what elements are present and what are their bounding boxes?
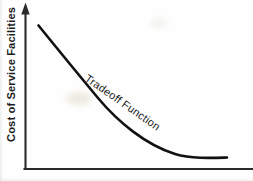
tradeoff-curve <box>39 26 228 158</box>
y-axis-arrow-icon <box>21 3 29 15</box>
tradeoff-function-chart: Cost of Service Facilities Tradeoff Func… <box>0 0 253 181</box>
y-axis-label: Cost of Service Facilities <box>5 7 17 142</box>
chart-canvas: Cost of Service Facilities Tradeoff Func… <box>0 0 253 181</box>
